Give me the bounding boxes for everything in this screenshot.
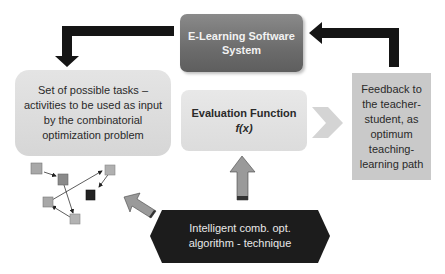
algorithm-label-line2: algorithm - technique bbox=[189, 236, 292, 251]
algorithm-label: Intelligent comb. opt. algorithm - techn… bbox=[150, 208, 330, 264]
algorithm-label-line1: Intelligent comb. opt. bbox=[189, 221, 292, 236]
